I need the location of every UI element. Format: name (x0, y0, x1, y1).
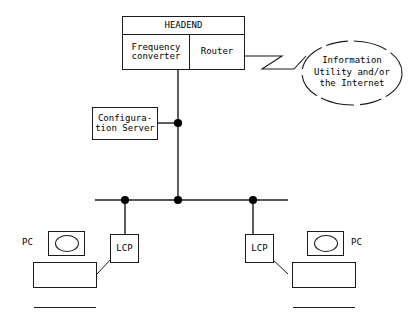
pc-label-right: PC (351, 238, 362, 247)
monitor-screen-icon (314, 235, 338, 252)
ethernet-box-right: Ethernet (292, 262, 356, 288)
lcp-box-left: LCP (110, 234, 139, 263)
frequency-converter-box: Frequency converter (122, 34, 189, 70)
configuration-server-box: Configura- tion Server (92, 107, 158, 140)
junction-dot-bus-right (249, 196, 257, 204)
ethernet-box-left: Ethernet (33, 262, 97, 288)
ethernet-box-top-strip (293, 297, 355, 308)
network-architecture-diagram: HEADEND Frequency converter Router Infor… (0, 0, 410, 313)
pc-label-left: PC (22, 238, 33, 247)
junction-dot-config-server (174, 119, 182, 127)
ethernet-box-top-strip (34, 297, 96, 308)
internet-cloud: Information Utility and/or the Internet (300, 38, 404, 108)
junction-dot-bus-trunk (174, 196, 182, 204)
router-box: Router (189, 34, 245, 70)
junction-dot-bus-left (121, 196, 129, 204)
computer-monitor-icon (307, 231, 344, 256)
computer-monitor-icon (48, 231, 85, 256)
router-to-cloud-line (245, 56, 306, 69)
cloud-label: Information Utility and/or the Internet (300, 55, 404, 90)
lcp-box-right: LCP (245, 234, 274, 263)
monitor-screen-icon (55, 235, 79, 252)
headend-title-box: HEADEND (122, 16, 245, 34)
